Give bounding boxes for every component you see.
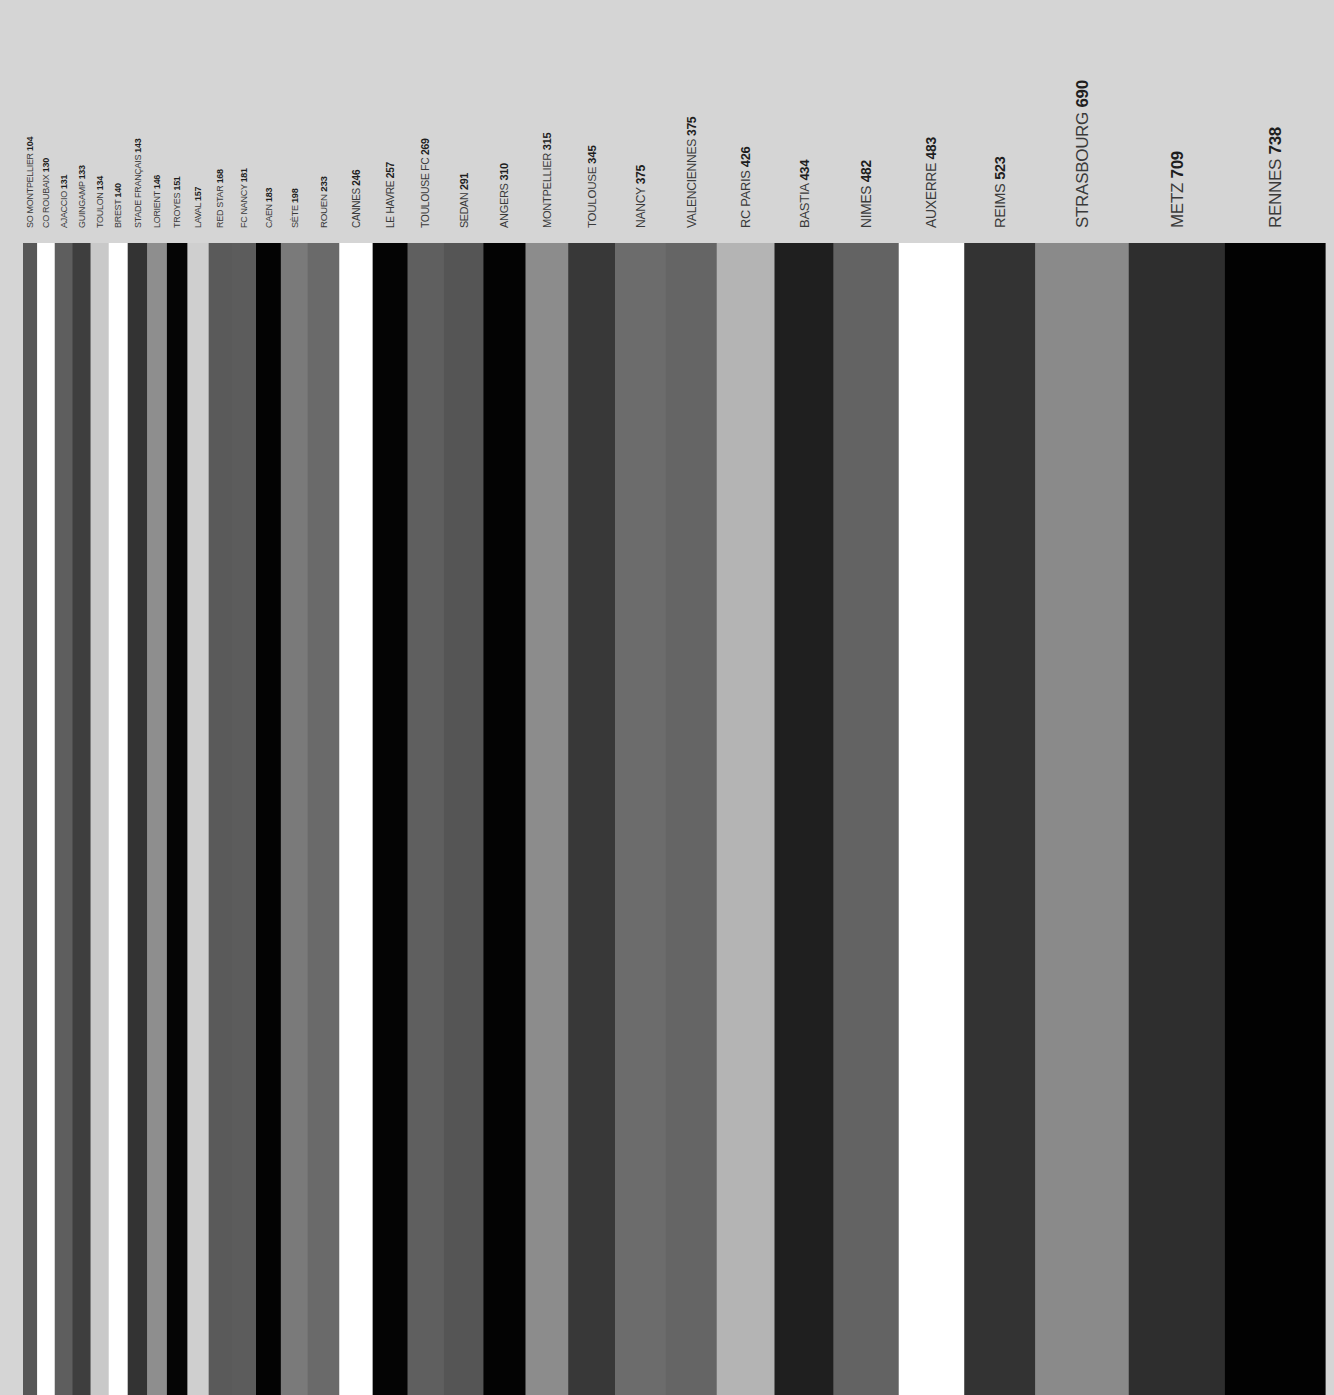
value-label: 310: [498, 163, 510, 181]
bar-label: GUINGAMP 133: [77, 165, 87, 228]
bar-label: CO ROUBAIX 130: [41, 158, 51, 228]
category-label: SO MONTPELLIER: [25, 151, 35, 228]
bar-label: ANGERS 310: [498, 163, 510, 228]
bar-label: TOULOUSE 345: [585, 145, 598, 228]
category-label: ANGERS: [498, 181, 510, 228]
category-label: MONTPELLIER: [541, 150, 553, 228]
bar-nancy: [615, 243, 666, 1395]
bar-label: STADE FRANÇAIS 143: [133, 138, 143, 228]
value-label: 183: [264, 188, 274, 202]
bar-toulon: [91, 243, 110, 1395]
value-label: 690: [1073, 80, 1092, 107]
category-label: LORIENT: [152, 189, 162, 228]
bar-strasbourg: [1035, 243, 1129, 1395]
bar-label: LE HAVRE 257: [385, 162, 396, 228]
bar-toulouse: [568, 243, 615, 1395]
bar-label: MONTPELLIER 315: [541, 132, 553, 228]
category-label: STADE FRANÇAIS: [133, 153, 143, 228]
value-label: 434: [797, 159, 812, 181]
bar-label: CANNES 246: [351, 169, 362, 228]
bar-label: AUXERRE 483: [923, 137, 939, 228]
category-label: SÈTE: [290, 203, 300, 228]
category-label: ROUEN: [318, 192, 329, 228]
value-label: 269: [420, 138, 431, 155]
bar-valenciennes: [666, 243, 717, 1395]
value-label: 315: [541, 132, 553, 150]
value-label: 104: [25, 137, 35, 151]
category-label: FC NANCY: [239, 182, 249, 228]
bar-bastia: [775, 243, 834, 1395]
value-label: 345: [585, 145, 598, 164]
bar-lorient: [147, 243, 167, 1395]
bar-label: LAVAL 157: [193, 187, 203, 228]
value-label: 375: [634, 164, 648, 184]
bar-label: METZ 709: [1168, 151, 1187, 228]
category-label: RC PARIS: [738, 167, 753, 228]
bar-rouen: [308, 243, 340, 1395]
category-label: BREST: [113, 197, 123, 228]
value-label: 151: [172, 176, 182, 190]
bar-label: TROYES 151: [172, 176, 182, 228]
bar-auxerre: [899, 243, 965, 1395]
bar-label: STRASBOURG 690: [1073, 80, 1092, 228]
bar-label: CAEN 183: [264, 188, 274, 228]
bar-toulouse-fc: [408, 243, 445, 1395]
bar-reims: [964, 243, 1036, 1395]
value-label: 426: [738, 146, 753, 167]
bar-label: SEDAN 291: [458, 173, 470, 228]
value-label: 246: [351, 169, 362, 186]
bar-co-roubaix: [37, 243, 55, 1395]
bar-metz: [1129, 243, 1226, 1395]
bar-ajaccio: [55, 243, 73, 1395]
value-label: 257: [385, 162, 396, 179]
bar-angers: [483, 243, 526, 1395]
value-label: 738: [1266, 127, 1285, 154]
category-label: TOULON: [95, 190, 105, 228]
bar-label: FC NANCY 181: [239, 168, 249, 228]
category-label: AJACCIO: [59, 189, 69, 228]
bar-label: ROUEN 233: [318, 175, 329, 228]
bar-sedan: [444, 243, 484, 1395]
value-label: 198: [290, 188, 300, 203]
value-label: 140: [113, 183, 123, 197]
value-label: 168: [215, 169, 225, 183]
category-label: AUXERRE: [923, 159, 939, 228]
bar-brest: [109, 243, 129, 1395]
category-label: NANCY: [634, 184, 648, 228]
bar-label: BASTIA 434: [797, 159, 812, 228]
bar-s-te: [281, 243, 308, 1395]
category-label: NIMES: [859, 182, 874, 228]
category-label: GUINGAMP: [77, 179, 87, 228]
category-label: CANNES: [351, 186, 362, 228]
bar-label: AJACCIO 131: [59, 174, 69, 228]
value-label: 483: [923, 137, 939, 160]
bar-label: TOULOUSE FC 269: [420, 138, 431, 228]
bar-red-star: [209, 243, 232, 1395]
category-label: TROYES: [172, 191, 182, 228]
category-label: BASTIA: [797, 181, 812, 228]
bar-le-havre: [373, 243, 408, 1395]
value-label: 233: [318, 175, 329, 191]
bar-label: SO MONTPELLIER 104: [25, 137, 35, 228]
bar-label: RC PARIS 426: [738, 146, 753, 228]
value-label: 482: [859, 160, 874, 183]
bar-label: RED STAR 168: [215, 169, 225, 228]
category-label: VALENCIENNES: [685, 136, 699, 228]
bar-label: RENNES 738: [1266, 127, 1285, 228]
bar-so-montpellier: [23, 243, 38, 1395]
category-label: TOULOUSE: [585, 164, 598, 228]
category-label: SEDAN: [458, 190, 470, 228]
value-label: 146: [152, 175, 162, 189]
value-label: 134: [95, 176, 105, 190]
bar-label: TOULON 134: [95, 176, 105, 228]
category-label: METZ: [1168, 179, 1187, 229]
bar-stade-fran-ais: [128, 243, 148, 1395]
value-label: 181: [239, 168, 249, 182]
value-label: 143: [133, 138, 143, 152]
bar-label: NANCY 375: [634, 164, 648, 228]
bar-montpellier: [525, 243, 568, 1395]
category-label: CAEN: [264, 202, 274, 228]
bar-label: NIMES 482: [859, 160, 874, 228]
category-label: RED STAR: [215, 183, 225, 228]
bar-cannes: [339, 243, 373, 1395]
